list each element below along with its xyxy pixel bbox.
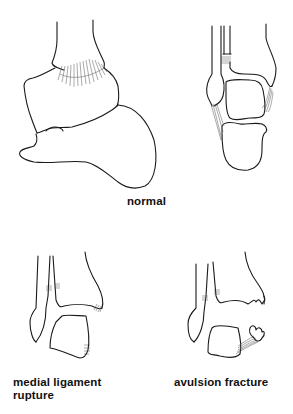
label-medial-ligament-rupture: medial ligament rupture [13, 376, 123, 402]
ligament-fibers-anterior [211, 57, 273, 140]
rupture-fibers [46, 284, 102, 354]
ligament-fibers [58, 59, 107, 87]
normal-lateral-view [20, 20, 156, 188]
avulsion-fracture-view [188, 252, 265, 357]
medial-ligament-rupture-view [30, 252, 103, 358]
normal-anterior-view [207, 24, 276, 170]
label-avulsion-fracture: avulsion fracture [174, 376, 268, 389]
label-normal: normal [127, 195, 166, 208]
avulsion-fibers [202, 290, 258, 354]
